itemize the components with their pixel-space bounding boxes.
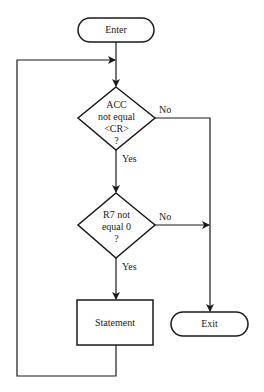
decision1-line2: not equal bbox=[78, 111, 155, 122]
exit-label: Exit bbox=[171, 318, 248, 329]
decision1-line4: ? bbox=[78, 135, 155, 146]
decision1-yes-label: Yes bbox=[122, 153, 137, 164]
flowchart-canvas bbox=[0, 0, 264, 392]
statement-label: Statement bbox=[77, 317, 153, 328]
decision2-no-label: No bbox=[159, 211, 171, 222]
decision1-line3: <CR> bbox=[78, 123, 155, 134]
decision2-line3: ? bbox=[78, 233, 155, 244]
decision2-line2: equal 0 bbox=[78, 221, 155, 232]
decision1-line1: ACC bbox=[78, 99, 155, 110]
decision1-no-label: No bbox=[159, 104, 171, 115]
enter-label: Enter bbox=[78, 24, 154, 35]
decision2-yes-label: Yes bbox=[122, 261, 137, 272]
decision2-line1: R7 not bbox=[78, 209, 155, 220]
